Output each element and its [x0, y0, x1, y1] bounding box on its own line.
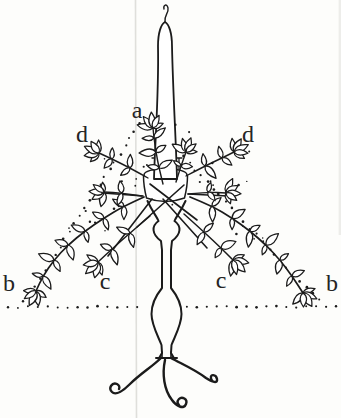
- label-b-left: b: [3, 270, 15, 296]
- label-c-right: c: [216, 267, 227, 293]
- candle-arrangement-figure: a d d b c c b: [0, 0, 341, 418]
- label-d-right: d: [242, 121, 254, 147]
- label-d-left: d: [76, 121, 88, 147]
- candlestick-drawing: [110, 148, 217, 407]
- illustration-page: a d d b c c b: [0, 0, 341, 418]
- label-b-right: b: [326, 270, 338, 296]
- label-c-left: c: [100, 268, 111, 294]
- label-a: a: [132, 97, 143, 123]
